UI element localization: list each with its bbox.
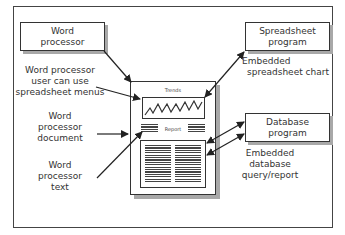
embedded-database-report: [140, 140, 206, 188]
text-label-line2: processor: [30, 171, 90, 182]
database-program-line1: Database: [266, 117, 309, 128]
zigzag-line-icon: [143, 98, 204, 118]
compound-document: Trends Report: [130, 81, 216, 195]
menus-label-line1: Word processor: [13, 65, 107, 76]
database-program-box: Database program: [245, 113, 330, 142]
report-column-left: [145, 145, 171, 183]
word-processor-line2: processor: [41, 37, 85, 48]
menus-label-line2: user can use: [13, 76, 107, 87]
spreadsheet-program-box: Spreadsheet program: [245, 22, 330, 51]
report-title: Report: [165, 126, 182, 132]
report-header: Report: [141, 123, 205, 134]
embedded-db-line2: database: [235, 159, 305, 170]
embedded-db-line3: query/report: [235, 170, 305, 181]
menus-label-line3: spreadsheet menus: [13, 87, 107, 98]
database-program-line2: program: [268, 128, 306, 139]
text-label-line1: Word: [30, 160, 90, 171]
report-column-right: [175, 145, 201, 183]
document-label: Word processor document: [30, 111, 90, 144]
embedded-db-label: Embedded database query/report: [235, 148, 305, 181]
embedded-chart: [142, 97, 205, 119]
spreadsheet-program-line1: Spreadsheet: [259, 26, 316, 37]
document-label-line2: processor: [30, 122, 90, 133]
text-lines-icon: [141, 124, 158, 134]
embedded-chart-label: Embedded spreadsheet chart: [238, 56, 338, 78]
embedded-chart-line1: Embedded: [238, 56, 338, 67]
menus-label: Word processor user can use spreadsheet …: [13, 65, 107, 98]
text-lines-icon: [188, 124, 205, 134]
document-label-line3: document: [30, 133, 90, 144]
spreadsheet-program-line2: program: [268, 37, 306, 48]
embedded-db-line1: Embedded: [235, 148, 305, 159]
word-processor-line1: Word: [51, 26, 74, 37]
text-label-line3: text: [30, 182, 90, 193]
word-processor-box: Word processor: [20, 22, 105, 51]
embedded-chart-line2: spreadsheet chart: [238, 67, 338, 78]
chart-title: Trends: [131, 87, 215, 93]
text-label: Word processor text: [30, 160, 90, 193]
document-label-line1: Word: [30, 111, 90, 122]
